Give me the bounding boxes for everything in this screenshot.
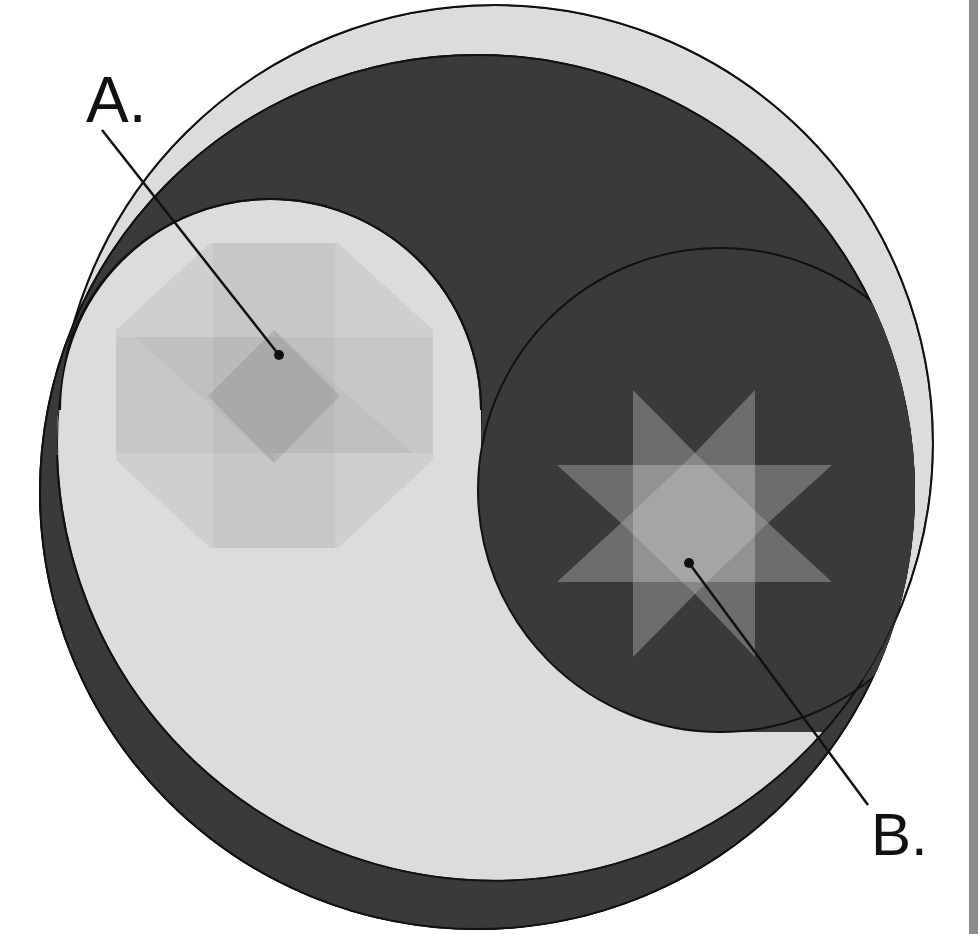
yin-yang-diagram: A. B. [0,0,978,934]
page-edge-strip [969,0,978,934]
callout-dot-b [684,558,694,568]
octagon-symbol [116,243,433,548]
callout-dot-a [274,350,284,360]
label-b: B. [871,801,928,868]
label-a: A. [86,64,146,136]
